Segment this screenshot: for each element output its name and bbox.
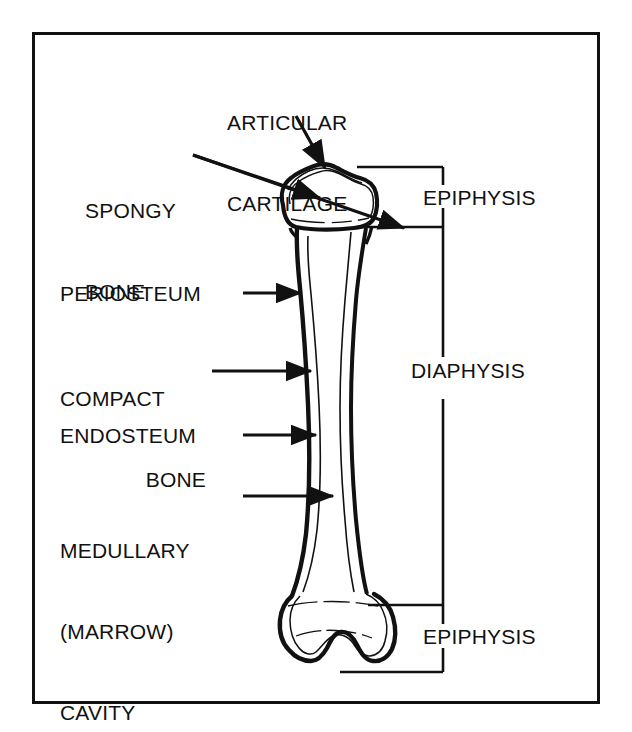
- compact-bone-label-line1: COMPACT: [60, 385, 206, 412]
- shaft-right-outer-cortex: [351, 228, 367, 594]
- medullary-cavity-label-line3: CAVITY: [60, 699, 190, 726]
- epiphysis-distal-label: EPIPHYSIS: [423, 623, 536, 650]
- articular-cartilage-label-line1: ARTICULAR: [227, 109, 347, 136]
- articular-cartilage-label: ARTICULAR CARTILAGE: [227, 55, 347, 271]
- medullary-cavity-label: MEDULLARY (MARROW) CAVITY: [60, 483, 190, 732]
- epiphysis-proximal-label: EPIPHYSIS: [423, 184, 536, 211]
- medullary-cavity-label-line2: (MARROW): [60, 618, 190, 645]
- periosteum-label: PERIOSTEUM: [60, 280, 201, 307]
- spongy-bone-label-line1: SPONGY: [85, 197, 176, 224]
- bone-anatomy-figure: ARTICULAR CARTILAGE SPONGY BONE PERIOSTE…: [0, 0, 632, 732]
- medullary-cavity-label-line1: MEDULLARY: [60, 537, 190, 564]
- diaphysis-label: DIAPHYSIS: [411, 357, 525, 384]
- spongy-bone-label: SPONGY BONE: [85, 143, 176, 359]
- articular-cartilage-label-line2: CARTILAGE: [227, 190, 347, 217]
- endosteum-label: ENDOSTEUM: [60, 422, 196, 449]
- shaft-left-outer-cortex: [292, 228, 309, 596]
